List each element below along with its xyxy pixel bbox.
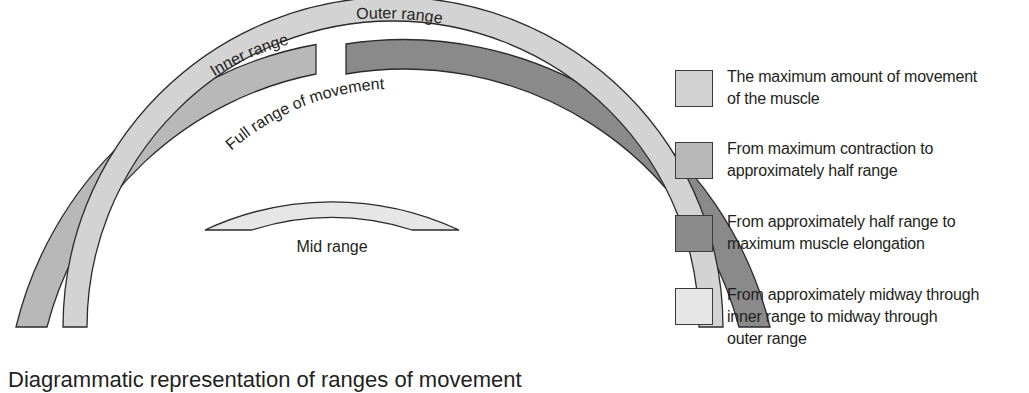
- legend-line: outer range: [727, 328, 1027, 350]
- legend-line: approximately half range: [727, 160, 1027, 182]
- legend-line: From approximately midway through: [727, 284, 1027, 306]
- legend-swatch-outer-range: [675, 215, 713, 252]
- legend-line: maximum muscle elongation: [727, 233, 1027, 255]
- legend-line: of the muscle: [727, 88, 1027, 110]
- legend-line: From approximately half range to: [727, 211, 1027, 233]
- legend-text-full-range: The maximum amount of movement of the mu…: [727, 66, 1027, 110]
- legend-swatch-mid-range: [675, 288, 713, 325]
- legend-line: From maximum contraction to: [727, 138, 1027, 160]
- legend-swatch-inner-range: [675, 142, 713, 179]
- legend-text-mid-range: From approximately midway through inner …: [727, 284, 1027, 350]
- legend-text-outer-range: From approximately half range to maximum…: [727, 211, 1027, 255]
- legend-line: The maximum amount of movement: [727, 66, 1027, 88]
- legend-swatch-full-range: [675, 70, 713, 107]
- figure-caption: Diagrammatic representation of ranges of…: [8, 367, 522, 393]
- mid-range-label: Mid range: [296, 238, 367, 255]
- legend-text-inner-range: From maximum contraction to approximatel…: [727, 138, 1027, 182]
- legend-line: inner range to midway through: [727, 306, 1027, 328]
- mid-range-band: [205, 202, 459, 230]
